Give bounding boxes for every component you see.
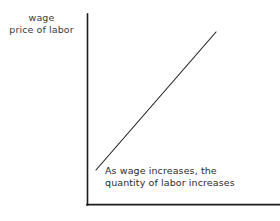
y-axis-label-line-2: price of labor [0,24,83,36]
annotation-line-1: As wage increases, the [105,165,217,176]
labor-supply-annotation: As wage increases, the quantity of labor… [105,165,235,188]
y-axis-label-line-1: wage [29,12,55,23]
y-axis-label: wage price of labor [0,12,83,35]
annotation-line-2: quantity of labor increases [105,177,235,189]
labor-supply-curve [96,32,216,170]
chart-canvas: wage price of labor As wage increases, t… [0,0,280,221]
